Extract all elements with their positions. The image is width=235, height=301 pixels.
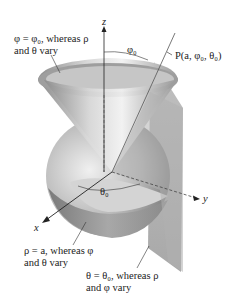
plane-annotation-line1: θ = θ₀, whereas ρ [86,270,158,282]
z-axis-label: z [102,16,106,28]
sphere-annotation-line1: ρ = a, whereas φ [24,245,93,257]
y-axis-label: y [203,193,208,205]
sphere-annotation-line2: and θ vary [24,257,68,269]
plane-leader [137,246,149,268]
phi0-label: φ₀ [127,44,137,56]
plane-annotation-line2: and φ vary [86,282,131,294]
cone-annotation-line1: φ = φ₀, whereas ρ [14,33,88,45]
theta0-label: θ₀ [100,186,109,198]
cone-annotation-line2: and θ vary [14,45,58,57]
x-axis-label: x [34,222,39,234]
point-P-label: P(a, φ₀, θ₀) [175,50,221,62]
y-axis-arrow-icon [193,196,200,202]
x-axis-arrow-icon [42,216,50,223]
